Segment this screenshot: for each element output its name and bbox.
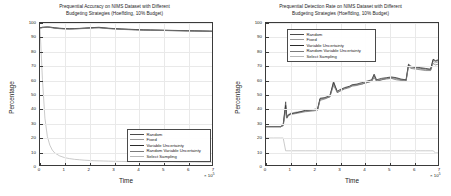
y-axis-tick-label: 60 bbox=[257, 77, 262, 82]
y-axis-tick-label: 30 bbox=[257, 120, 262, 125]
y-axis-title-accuracy: Percentage bbox=[8, 63, 15, 133]
y-axis-tick bbox=[266, 66, 269, 67]
legend-line-swatch bbox=[130, 151, 144, 152]
legend-item-label: Select Sampling bbox=[307, 54, 337, 60]
legend-line-swatch bbox=[290, 39, 304, 40]
y-axis-tick bbox=[266, 81, 269, 82]
x-axis-tick bbox=[189, 163, 190, 166]
y-axis-tick-label: 10 bbox=[257, 149, 262, 154]
gridline-vertical bbox=[90, 23, 91, 165]
y-axis-tick-label: 100 bbox=[29, 20, 36, 25]
legend-line-swatch bbox=[290, 51, 304, 52]
y-axis-tick bbox=[40, 66, 43, 67]
x-axis-tick-label: 3 bbox=[338, 167, 340, 172]
legend-line-swatch bbox=[290, 45, 304, 46]
x-axis-tick bbox=[365, 163, 366, 166]
x-axis-tick bbox=[266, 163, 267, 166]
legend-item[interactable]: Select Sampling bbox=[130, 154, 208, 160]
y-axis-tick bbox=[40, 95, 43, 96]
legend-line-swatch bbox=[130, 134, 144, 135]
y-axis-tick bbox=[266, 52, 269, 53]
y-axis-tick bbox=[40, 81, 43, 82]
chart-panel-accuracy: Prequential Accuracy on NIMS Dataset wit… bbox=[0, 0, 225, 196]
y-axis-tick bbox=[266, 153, 269, 154]
y-axis-tick bbox=[40, 138, 43, 139]
y-axis-tick bbox=[266, 109, 269, 110]
y-axis-tick bbox=[40, 109, 43, 110]
legend-detection: RandomFixedVariable UncertaintyRandom Va… bbox=[287, 29, 376, 62]
x-axis-tick bbox=[316, 163, 317, 166]
y-axis-tick bbox=[266, 95, 269, 96]
x-axis-tick bbox=[415, 163, 416, 166]
x-axis-tick-label: 5 bbox=[162, 167, 164, 172]
legend-item[interactable]: Select Sampling bbox=[290, 54, 373, 60]
y-axis-tick-label: 70 bbox=[31, 63, 36, 68]
x-axis-exponent-detection: × 105 bbox=[430, 172, 440, 178]
x-axis-tick-label: 4 bbox=[137, 167, 139, 172]
x-axis-title-detection: Time bbox=[265, 177, 439, 184]
series-line bbox=[266, 59, 439, 126]
legend-line-swatch bbox=[290, 34, 304, 35]
x-axis-tick-label: 1 bbox=[289, 167, 291, 172]
series-line bbox=[266, 60, 439, 127]
x-axis-tick-label: 5 bbox=[388, 167, 390, 172]
x-axis-tick bbox=[390, 163, 391, 166]
y-axis-tick bbox=[40, 23, 43, 24]
x-axis-title-accuracy: Time bbox=[39, 177, 213, 184]
x-axis-tick-label: 2 bbox=[313, 167, 315, 172]
y-axis-tick-label: 0 bbox=[34, 164, 36, 169]
gridline-vertical bbox=[390, 23, 391, 165]
figure-container: Prequential Accuracy on NIMS Dataset wit… bbox=[0, 0, 451, 196]
gridline-vertical bbox=[415, 23, 416, 165]
chart-title-detection: Prequential Detection Rate on NIMS Datas… bbox=[236, 3, 445, 17]
x-axis-tick bbox=[65, 163, 66, 166]
y-axis-tick-label: 20 bbox=[257, 135, 262, 140]
x-axis-tick-label: 2 bbox=[87, 167, 89, 172]
y-axis-tick-label: 40 bbox=[257, 106, 262, 111]
y-axis-tick bbox=[266, 37, 269, 38]
y-axis-labels-accuracy: 0102030405060708090100 bbox=[1, 22, 36, 166]
y-axis-tick-label: 90 bbox=[31, 34, 36, 39]
x-axis-tick bbox=[164, 163, 165, 166]
x-axis-tick-label: 4 bbox=[363, 167, 365, 172]
gridline-vertical bbox=[115, 23, 116, 165]
x-axis-labels-accuracy: 01234567 bbox=[39, 167, 213, 175]
y-axis-tick-label: 80 bbox=[257, 48, 262, 53]
y-axis-tick-label: 30 bbox=[31, 120, 36, 125]
x-axis-tick-label: 0 bbox=[264, 167, 266, 172]
gridline-vertical bbox=[65, 23, 66, 165]
y-axis-tick-label: 50 bbox=[31, 92, 36, 97]
x-axis-tick bbox=[139, 163, 140, 166]
x-axis-exponent-accuracy: × 105 bbox=[204, 172, 214, 178]
y-axis-tick-label: 40 bbox=[31, 106, 36, 111]
x-axis-tick bbox=[40, 163, 41, 166]
x-axis-tick-label: 1 bbox=[63, 167, 65, 172]
y-axis-tick-label: 60 bbox=[31, 77, 36, 82]
y-axis-tick bbox=[266, 124, 269, 125]
y-axis-tick-label: 10 bbox=[31, 149, 36, 154]
legend-line-swatch bbox=[290, 56, 304, 57]
y-axis-tick-label: 70 bbox=[257, 63, 262, 68]
legend-accuracy: RandomFixedVariable UncertaintyRandom Va… bbox=[127, 129, 211, 162]
y-axis-tick bbox=[40, 153, 43, 154]
y-axis-tick-label: 50 bbox=[257, 92, 262, 97]
x-axis-tick-label: 6 bbox=[187, 167, 189, 172]
legend-item-label: Select Sampling bbox=[147, 154, 177, 160]
series-line bbox=[40, 27, 213, 31]
x-axis-tick-label: 3 bbox=[112, 167, 114, 172]
y-axis-tick-label: 20 bbox=[31, 135, 36, 140]
y-axis-tick bbox=[40, 124, 43, 125]
y-axis-tick-label: 100 bbox=[255, 20, 262, 25]
x-axis-tick-label: 0 bbox=[38, 167, 40, 172]
y-axis-tick bbox=[40, 52, 43, 53]
x-axis-tick bbox=[115, 163, 116, 166]
chart-title-accuracy: Prequential Accuracy on NIMS Dataset wit… bbox=[10, 3, 219, 17]
legend-line-swatch bbox=[130, 156, 144, 157]
x-axis-tick bbox=[291, 163, 292, 166]
x-axis-tick bbox=[90, 163, 91, 166]
y-axis-tick-label: 80 bbox=[31, 48, 36, 53]
x-axis-tick-label: 6 bbox=[413, 167, 415, 172]
x-axis-tick bbox=[341, 163, 342, 166]
y-axis-tick-label: 0 bbox=[260, 164, 262, 169]
y-axis-tick bbox=[266, 23, 269, 24]
